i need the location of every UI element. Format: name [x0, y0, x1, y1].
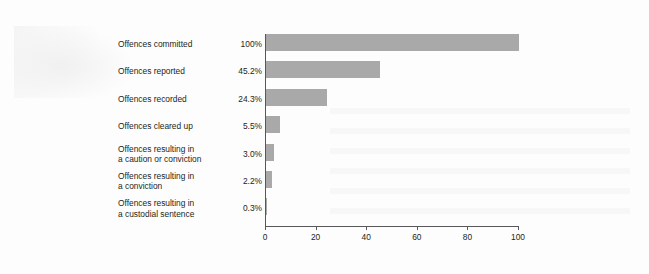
bar-value-label: 45.2%	[200, 66, 262, 76]
bar-value-label: 2.2%	[200, 176, 262, 186]
bar	[266, 116, 280, 133]
bar-chart: Offences committed100%Offences reported4…	[0, 6, 649, 246]
x-axis-tick	[265, 226, 266, 230]
x-axis-tick	[518, 226, 519, 230]
bar-value-label: 100%	[200, 39, 262, 49]
x-axis-tick	[467, 226, 468, 230]
bar-value-label: 5.5%	[200, 121, 262, 131]
bar-row: Offences reported45.2%	[0, 61, 649, 89]
bar	[266, 61, 380, 78]
bar	[266, 171, 272, 188]
bar	[266, 144, 274, 161]
bar-row: Offences resulting ina conviction2.2%	[0, 171, 649, 199]
x-axis-tick-label: 60	[402, 232, 432, 242]
bar-value-label: 24.3%	[200, 94, 262, 104]
bar-row: Offences recorded24.3%	[0, 89, 649, 117]
bar-value-label: 0.3%	[200, 203, 262, 213]
x-axis-tick	[366, 226, 367, 230]
x-axis-tick-label: 20	[301, 232, 331, 242]
bar	[266, 34, 519, 51]
bar-value-label: 3.0%	[200, 149, 262, 159]
x-axis-tick	[417, 226, 418, 230]
x-axis-tick-label: 80	[452, 232, 482, 242]
plot-area: Offences committed100%Offences reported4…	[0, 6, 649, 246]
bar-row: Offences committed100%	[0, 34, 649, 62]
bar	[266, 89, 327, 106]
figure-caption	[8, 264, 628, 274]
scanned-page: Offences committed100%Offences reported4…	[0, 0, 649, 274]
x-axis-tick-label: 0	[250, 232, 280, 242]
bar-row: Offences cleared up5.5%	[0, 116, 649, 144]
x-axis-tick	[316, 226, 317, 230]
x-axis-tick-label: 40	[351, 232, 381, 242]
bar-row: Offences resulting ina custodial sentenc…	[0, 198, 649, 226]
bar-row: Offences resulting ina caution or convic…	[0, 144, 649, 172]
bar	[266, 198, 267, 215]
x-axis-tick-label: 100	[503, 232, 533, 242]
